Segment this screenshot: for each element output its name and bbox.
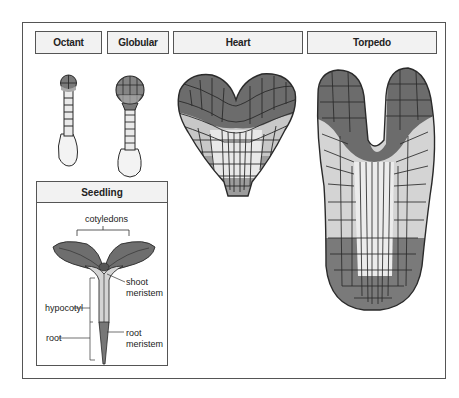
root-label: root [46,333,62,343]
cotyledons-label: cotyledons [85,214,128,224]
stage-label-globular: Globular [107,31,169,54]
stage-label-octant: Octant [35,31,102,54]
root-meristem-label-line2: meristem [126,339,163,349]
octant-embryo-illustration [55,74,85,170]
shoot-meristem-label-line1: shoot [126,277,148,287]
globular-embryo-illustration [110,73,150,178]
seedling-panel: Seedling cotyledons shoot meristem hypoc… [36,181,168,366]
heart-embryo-illustration [170,70,303,200]
shoot-meristem-label-line2: meristem [126,288,163,298]
stage-label-torpedo: Torpedo [307,31,437,54]
stage-label-heart: Heart [173,31,303,54]
root-meristem-label-line1: root [126,328,142,338]
torpedo-embryo-illustration [308,66,438,316]
hypocotyl-label: hypocotyl [45,303,83,313]
